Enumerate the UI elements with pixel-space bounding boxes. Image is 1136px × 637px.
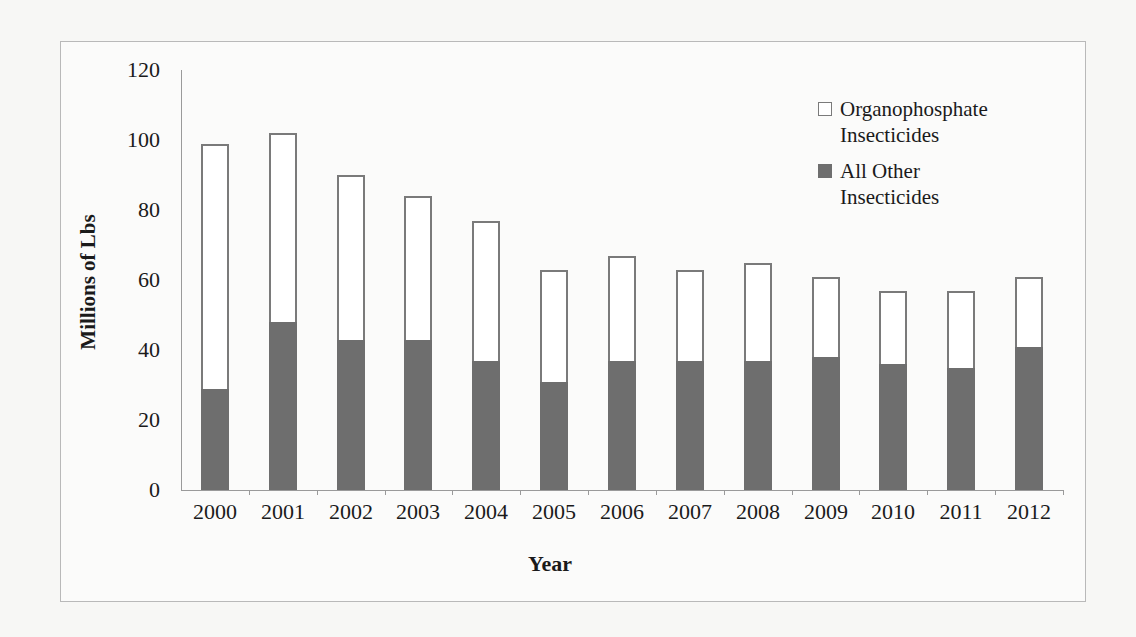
x-axis-title: Year	[500, 551, 600, 577]
y-tick-label: 40	[100, 339, 160, 361]
bar-segment-organophosphate	[947, 291, 975, 368]
x-tick-label: 2000	[181, 501, 249, 523]
bar-2002	[337, 175, 365, 490]
bar-2003	[404, 196, 432, 490]
bar-2006	[608, 256, 636, 491]
bar-segment-all-other	[201, 389, 229, 491]
x-tick	[317, 490, 318, 495]
bar-segment-all-other	[676, 361, 704, 491]
legend-swatch-dark-icon	[818, 164, 832, 178]
bar-segment-organophosphate	[540, 270, 568, 382]
bar-2001	[269, 133, 297, 490]
x-tick-label: 2011	[927, 501, 995, 523]
bar-segment-organophosphate	[201, 144, 229, 389]
bar-segment-all-other	[879, 364, 907, 490]
x-tick	[792, 490, 793, 495]
x-tick	[588, 490, 589, 495]
bar-segment-organophosphate	[608, 256, 636, 361]
x-tick	[724, 490, 725, 495]
x-tick-label: 2006	[588, 501, 656, 523]
bar-segment-organophosphate	[812, 277, 840, 358]
x-tick	[452, 490, 453, 495]
x-tick-label: 2003	[384, 501, 452, 523]
bar-2005	[540, 270, 568, 491]
bar-2009	[812, 277, 840, 491]
x-tick	[1063, 490, 1064, 495]
legend-swatch-white-icon	[818, 102, 832, 116]
y-axis-line	[181, 70, 182, 491]
x-tick	[249, 490, 250, 495]
y-tick-label: 20	[100, 409, 160, 431]
x-tick	[385, 490, 386, 495]
bar-segment-all-other	[744, 361, 772, 491]
legend-label-line2: Insecticides	[840, 122, 1058, 148]
legend-label-line1: All Other	[840, 158, 1058, 184]
bar-2012	[1015, 277, 1043, 491]
x-tick-label: 2002	[317, 501, 385, 523]
x-tick-label: 2008	[724, 501, 792, 523]
x-tick	[859, 490, 860, 495]
bar-segment-organophosphate	[337, 175, 365, 340]
x-tick-label: 2004	[452, 501, 520, 523]
bar-2008	[744, 263, 772, 491]
y-tick-label: 120	[100, 59, 160, 81]
x-tick-label: 2007	[656, 501, 724, 523]
bar-segment-all-other	[472, 361, 500, 491]
x-tick	[520, 490, 521, 495]
y-tick-label: 0	[100, 479, 160, 501]
x-tick-label: 2010	[859, 501, 927, 523]
bar-segment-all-other	[269, 322, 297, 490]
bar-2007	[676, 270, 704, 491]
bar-segment-all-other	[947, 368, 975, 491]
bar-segment-organophosphate	[1015, 277, 1043, 347]
bar-segment-all-other	[404, 340, 432, 491]
bar-2004	[472, 221, 500, 491]
bar-2010	[879, 291, 907, 491]
x-axis-line	[181, 490, 1063, 491]
bar-segment-organophosphate	[744, 263, 772, 361]
x-tick-label: 2009	[792, 501, 860, 523]
x-tick	[927, 490, 928, 495]
x-tick-label: 2005	[520, 501, 588, 523]
legend-item-organophosphate: Organophosphate Insecticides	[818, 96, 1058, 148]
bar-2000	[201, 144, 229, 491]
bar-segment-organophosphate	[404, 196, 432, 340]
y-tick-label: 80	[100, 199, 160, 221]
bar-segment-all-other	[540, 382, 568, 491]
legend: Organophosphate Insecticides All Other I…	[818, 96, 1058, 220]
x-tick-label: 2001	[249, 501, 317, 523]
x-tick-label: 2012	[995, 501, 1063, 523]
y-tick-label: 60	[100, 269, 160, 291]
bar-segment-organophosphate	[472, 221, 500, 361]
bar-segment-organophosphate	[879, 291, 907, 365]
y-tick-label: 100	[100, 129, 160, 151]
bar-segment-all-other	[337, 340, 365, 491]
legend-label-line1: Organophosphate	[840, 96, 1058, 122]
bar-segment-organophosphate	[269, 133, 297, 322]
y-axis-title: Millions of Lbs	[76, 182, 100, 382]
x-tick	[995, 490, 996, 495]
legend-label-line2: Insecticides	[840, 184, 1058, 210]
x-tick	[656, 490, 657, 495]
bar-segment-all-other	[1015, 347, 1043, 491]
bar-2011	[947, 291, 975, 491]
legend-item-all-other: All Other Insecticides	[818, 158, 1058, 210]
bar-segment-organophosphate	[676, 270, 704, 361]
bar-segment-all-other	[608, 361, 636, 491]
bar-segment-all-other	[812, 357, 840, 490]
